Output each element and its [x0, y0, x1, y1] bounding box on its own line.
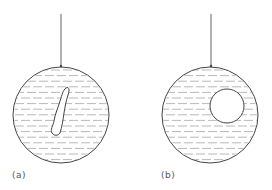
attachment-point: [60, 65, 62, 67]
panel-a-sphere-with-irregular-inclusion: [3, 14, 119, 163]
panel-a-label: (a): [12, 170, 26, 180]
panel-b-label: (b): [161, 170, 175, 180]
circular-cavity: [210, 89, 244, 123]
liquid-hatch-lines: [154, 70, 268, 160]
panel-b-sphere-with-circular-inclusion: [154, 14, 268, 163]
attachment-point: [210, 65, 212, 67]
figure-canvas: [0, 0, 272, 190]
irregular-inclusion: [51, 87, 69, 135]
